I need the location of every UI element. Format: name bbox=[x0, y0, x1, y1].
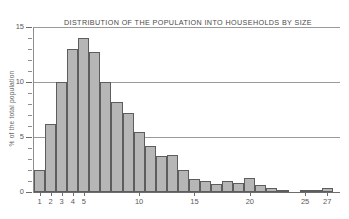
y-tick-minor bbox=[28, 148, 32, 149]
x-tick bbox=[250, 193, 251, 196]
x-tick bbox=[194, 193, 195, 196]
y-tick-minor bbox=[28, 49, 32, 50]
bar bbox=[189, 179, 200, 192]
y-tick-label: 15 bbox=[2, 23, 24, 31]
y-tick-minor bbox=[28, 93, 32, 94]
bar bbox=[78, 38, 89, 192]
bar bbox=[134, 132, 145, 193]
x-tick bbox=[62, 193, 63, 196]
bar bbox=[233, 183, 244, 192]
y-tick-minor bbox=[28, 60, 32, 61]
x-tick bbox=[327, 193, 328, 196]
y-tick-major bbox=[26, 82, 32, 83]
bar bbox=[45, 124, 56, 192]
y-tick-label: 10 bbox=[2, 78, 24, 86]
x-tick-label: 20 bbox=[240, 197, 260, 206]
bar bbox=[123, 113, 134, 192]
bar bbox=[244, 178, 255, 192]
x-tick bbox=[84, 193, 85, 196]
x-tick bbox=[40, 193, 41, 196]
y-tick-minor bbox=[28, 170, 32, 171]
x-axis-line bbox=[34, 192, 340, 193]
x-tick bbox=[51, 193, 52, 196]
y-tick-major bbox=[26, 192, 32, 193]
y-tick-minor bbox=[28, 159, 32, 160]
bar bbox=[34, 170, 45, 192]
chart-title: DISTRIBUTION OF THE POPULATION INTO HOUS… bbox=[38, 18, 338, 27]
y-tick-major bbox=[26, 137, 32, 138]
bar bbox=[89, 52, 100, 192]
y-tick-minor bbox=[28, 38, 32, 39]
bar bbox=[200, 181, 211, 192]
bar bbox=[211, 184, 222, 192]
bar bbox=[167, 155, 178, 192]
chart-figure: DISTRIBUTION OF THE POPULATION INTO HOUS… bbox=[0, 0, 349, 219]
x-tick bbox=[139, 193, 140, 196]
bar bbox=[178, 170, 189, 192]
y-tick-minor bbox=[28, 71, 32, 72]
x-tick-label: 25 bbox=[295, 197, 315, 206]
y-tick-label: 0 bbox=[2, 188, 24, 196]
y-tick-minor bbox=[28, 181, 32, 182]
bar bbox=[156, 156, 167, 192]
plot-area bbox=[34, 27, 340, 192]
y-tick-minor bbox=[28, 104, 32, 105]
bar bbox=[111, 102, 122, 192]
bar bbox=[100, 82, 111, 192]
bar bbox=[56, 82, 67, 192]
y-tick-label: 5 bbox=[2, 133, 24, 141]
y-tick-minor bbox=[28, 115, 32, 116]
bar bbox=[145, 146, 156, 192]
x-tick bbox=[73, 193, 74, 196]
x-tick-label: 27 bbox=[317, 197, 337, 206]
x-tick-label: 10 bbox=[129, 197, 149, 206]
x-tick-label: 5 bbox=[74, 197, 94, 206]
y-tick-minor bbox=[28, 126, 32, 127]
bar bbox=[67, 49, 78, 192]
x-tick-label: 15 bbox=[184, 197, 204, 206]
bar bbox=[255, 185, 266, 192]
y-tick-major bbox=[26, 27, 32, 28]
bar bbox=[222, 181, 233, 192]
gridline-15 bbox=[34, 27, 340, 28]
x-tick bbox=[305, 193, 306, 196]
y-axis-tick-labels: 051015 bbox=[0, 0, 24, 219]
